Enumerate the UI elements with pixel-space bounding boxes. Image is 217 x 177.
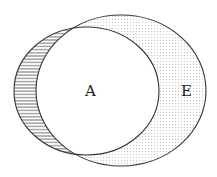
venn-diagram: A E	[0, 0, 217, 177]
set-a-label: A	[84, 82, 96, 100]
set-e-label: E	[181, 82, 192, 100]
